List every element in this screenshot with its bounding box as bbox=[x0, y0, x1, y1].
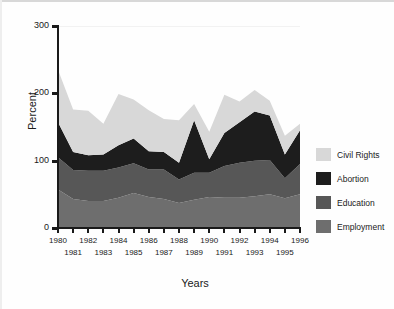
x-tick-1988 bbox=[178, 229, 180, 233]
x-tick-1982 bbox=[87, 229, 89, 233]
x-tick-1987 bbox=[163, 229, 165, 233]
chart-legend: Civil RightsAbortionEducationEmployment bbox=[316, 148, 394, 244]
x-tick-1985 bbox=[133, 229, 135, 233]
y-axis-title: Percent bbox=[26, 71, 38, 151]
x-tick-1991 bbox=[223, 229, 225, 233]
y-tick-label-100: 100 bbox=[17, 155, 49, 165]
x-tick-label-1983: 1983 bbox=[88, 248, 118, 257]
x-tick-label-1992: 1992 bbox=[225, 236, 255, 245]
legend-item-employment: Employment bbox=[316, 220, 394, 233]
legend-swatch-icon bbox=[316, 148, 331, 161]
x-tick-label-1993: 1993 bbox=[240, 248, 270, 257]
legend-item-education: Education bbox=[316, 196, 394, 209]
legend-item-abortion: Abortion bbox=[316, 172, 394, 185]
chart-figure: 3002001000 19801981198219831984198519861… bbox=[0, 0, 394, 309]
x-tick-1993 bbox=[254, 229, 256, 233]
plot-area bbox=[58, 26, 300, 228]
legend-swatch-icon bbox=[316, 196, 331, 209]
figure-left-border bbox=[0, 0, 2, 309]
x-tick-label-1995: 1995 bbox=[270, 248, 300, 257]
x-tick-label-1989: 1989 bbox=[179, 248, 209, 257]
y-tick-label-0: 0 bbox=[17, 222, 49, 232]
x-tick-1994 bbox=[269, 229, 271, 233]
x-tick-label-1982: 1982 bbox=[73, 236, 103, 245]
x-tick-label-1981: 1981 bbox=[58, 248, 88, 257]
legend-swatch-icon bbox=[316, 220, 331, 233]
x-tick-1990 bbox=[208, 229, 210, 233]
x-tick-label-1996: 1996 bbox=[285, 236, 315, 245]
x-tick-label-1991: 1991 bbox=[209, 248, 239, 257]
x-tick-1980 bbox=[57, 229, 59, 233]
x-axis-title: Years bbox=[130, 277, 260, 289]
x-tick-label-1986: 1986 bbox=[134, 236, 164, 245]
x-tick-label-1984: 1984 bbox=[104, 236, 134, 245]
x-tick-label-1980: 1980 bbox=[43, 236, 73, 245]
legend-item-civil-rights: Civil Rights bbox=[316, 148, 394, 161]
y-tick-300 bbox=[52, 25, 57, 28]
x-tick-1986 bbox=[148, 229, 150, 233]
x-tick-1984 bbox=[118, 229, 120, 233]
x-tick-label-1990: 1990 bbox=[194, 236, 224, 245]
stacked-area-svg bbox=[58, 26, 300, 228]
x-tick-label-1994: 1994 bbox=[255, 236, 285, 245]
legend-label: Civil Rights bbox=[337, 150, 380, 160]
x-tick-1996 bbox=[299, 229, 301, 233]
legend-label: Abortion bbox=[337, 174, 369, 184]
x-tick-label-1988: 1988 bbox=[164, 236, 194, 245]
x-tick-1995 bbox=[284, 229, 286, 233]
y-tick-200 bbox=[52, 92, 57, 95]
x-tick-1983 bbox=[102, 229, 104, 233]
x-tick-label-1985: 1985 bbox=[119, 248, 149, 257]
y-tick-label-300: 300 bbox=[17, 20, 49, 30]
x-tick-1981 bbox=[72, 229, 74, 233]
x-tick-1989 bbox=[193, 229, 195, 233]
x-tick-1992 bbox=[239, 229, 241, 233]
y-tick-100 bbox=[52, 160, 57, 163]
legend-swatch-icon bbox=[316, 172, 331, 185]
legend-label: Employment bbox=[337, 222, 384, 232]
x-tick-label-1987: 1987 bbox=[149, 248, 179, 257]
y-axis-line bbox=[57, 25, 59, 229]
figure-top-border bbox=[0, 0, 394, 2]
legend-label: Education bbox=[337, 198, 375, 208]
